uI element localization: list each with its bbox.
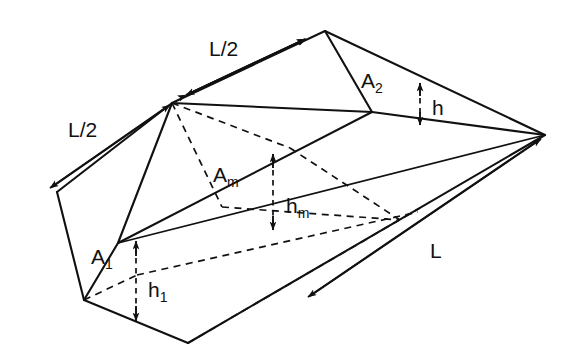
dimension-h1: h1 [136,241,168,321]
label-am: Am [213,163,239,190]
label-h: h [432,96,444,119]
diagram-canvas: L/2 L/2 L h hm [0,0,586,359]
dimension-l-full: L [308,139,541,297]
label-a2: A2 [361,69,383,96]
near-bottom-rim [118,135,545,343]
dimension-hm: hm [273,154,309,230]
dimension-l-half-top: L/2 [186,37,306,95]
label-l-half-top: L/2 [209,37,238,60]
hidden-floor-lines [84,208,420,343]
label-h1: h1 [148,278,168,305]
label-hm: hm [286,194,309,221]
dimension-l-half-left: L/2 [50,105,170,188]
inner-floor-edges [118,103,372,243]
cross-section-a1-outline [57,192,188,343]
rear-top-rim [57,31,325,192]
label-l-full: L [430,239,442,262]
label-l-half-left: L/2 [68,118,97,141]
label-a1: A1 [91,245,113,272]
prismoidal-volume-figure: L/2 L/2 L h hm [0,0,586,359]
